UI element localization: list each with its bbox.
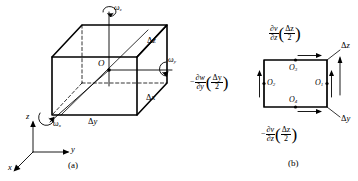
point-o3-label: O3: [289, 64, 297, 73]
omega-y-label: ωy: [168, 56, 176, 65]
delta-y-label-a: Δy: [88, 117, 97, 126]
point-o4-dot: [294, 105, 297, 108]
velocity-arrow-right: [329, 70, 334, 97]
point-o2-label: O2: [267, 79, 275, 88]
expr-left: −∂w∂y(Δy2): [190, 74, 228, 91]
cube-body-diagonal: [61, 30, 148, 115]
caption-a: (a): [68, 160, 78, 170]
figure-container: ωz ωy ωx O Δz Δx Δy z y x (a): [0, 0, 358, 181]
expr-top: ∂v∂z(Δz2): [269, 25, 301, 42]
velocity-arrow-left: [257, 70, 262, 97]
caption-b: (b): [288, 158, 299, 168]
delta-z-label-b: Δz: [341, 41, 350, 50]
point-o2-dot: [262, 82, 265, 85]
cube-front-face: [52, 57, 137, 115]
delta-z-label-a: Δz: [147, 36, 156, 45]
panel-a-drawing: [0, 0, 178, 181]
axis-z-label: z: [26, 112, 29, 121]
expr-bottom: −∂v∂z(Δz2): [261, 126, 297, 143]
axis-x-label: x: [8, 163, 12, 172]
delta-x-label-a: Δx: [146, 93, 155, 102]
delta-y-leader-b: [327, 107, 340, 117]
omega-z-label: ωz: [114, 4, 122, 13]
delta-z-dimension-arrow: [338, 56, 343, 95]
delta-z-leader-b: [327, 50, 340, 60]
axis-y-label: y: [71, 145, 75, 154]
point-o1-dot: [325, 82, 328, 85]
omega-x-label: ωx: [53, 120, 61, 129]
point-o4-label: O4: [289, 96, 297, 105]
velocity-arrow-bottom: [298, 109, 322, 114]
coordinate-axes: [14, 121, 70, 172]
point-o3-dot: [294, 58, 297, 61]
panel-a: ωz ωy ωx O Δz Δx Δy z y x (a): [0, 0, 178, 181]
delta-y-label-b: Δy: [341, 114, 350, 123]
point-o1-label: O1: [315, 79, 323, 88]
origin-point: [107, 68, 111, 72]
panel-b: ∂v∂z(Δz2) −∂w∂y(Δy2) −∂v∂z(Δz2) O3 O2 O1…: [178, 0, 358, 181]
origin-label: O: [98, 59, 105, 68]
velocity-arrow-top: [298, 53, 322, 58]
